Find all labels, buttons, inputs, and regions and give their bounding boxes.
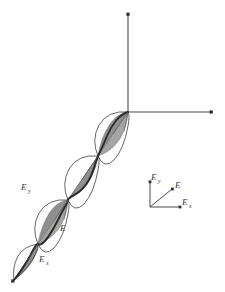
label-field-main: E <box>59 223 66 233</box>
label-field-x-bottom-main: E <box>38 254 45 264</box>
label-field-x-bottom: E x <box>38 254 49 266</box>
inset-label-y-subscript: y <box>157 178 161 184</box>
inset-legend: E y E E x <box>149 172 192 209</box>
label-field-y-left-subscript: y <box>27 188 31 194</box>
polarized-wave-figure: E y E E x E y E E x <box>0 0 225 292</box>
wave-labels: E y E E x <box>20 182 66 266</box>
horizontal-axis-tip-marker <box>210 110 213 113</box>
inset-resultant-line <box>150 189 172 207</box>
inset-label-resultant-text: E <box>174 180 181 190</box>
inset-label-x-main: E <box>181 197 188 207</box>
inset-label-x: E x <box>181 197 192 209</box>
label-field-x-bottom-subscript: x <box>45 260 49 266</box>
inset-label-y-main: E <box>150 172 157 182</box>
inset-resultant-tip-marker <box>171 188 174 191</box>
label-field-y-left: E y <box>20 182 31 194</box>
inset-x-axis-tip-marker <box>179 206 182 209</box>
label-field-y-left-main: E <box>20 182 27 192</box>
label-field-main-text: E <box>59 223 66 233</box>
inset-label-x-subscript: x <box>188 203 192 209</box>
inset-label-resultant: E <box>174 180 181 190</box>
vertical-axis-tip-marker <box>126 13 129 16</box>
inset-label-y: E y <box>150 172 161 184</box>
